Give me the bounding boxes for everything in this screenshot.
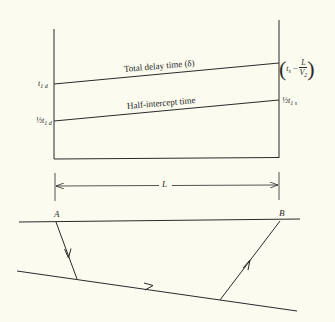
dimension-arrow-left (56, 186, 159, 187)
bottom-axis-line (54, 158, 279, 160)
ray-diagram (17, 219, 300, 311)
dimension-arrow-right (172, 185, 278, 186)
point-a-label: A (54, 209, 60, 219)
distance-l-label: L (162, 179, 167, 189)
delay-time-figure: Total delay time (δ) Half-intercept time… (0, 0, 335, 322)
t1d-label: t1 d (38, 79, 48, 89)
downgoing-ray (56, 222, 77, 279)
refractor-line (17, 271, 297, 311)
time-diagram-frame (54, 20, 279, 159)
ts-minus-l-over-v2-label: (ts − LV2) (279, 56, 315, 82)
ground-surface-line (19, 219, 300, 222)
half-t1s-label: ½t1 s (282, 96, 297, 106)
figure-lines (0, 0, 335, 322)
point-b-label: B (279, 208, 285, 218)
half-t1d-label: ½t1 d (36, 116, 52, 126)
